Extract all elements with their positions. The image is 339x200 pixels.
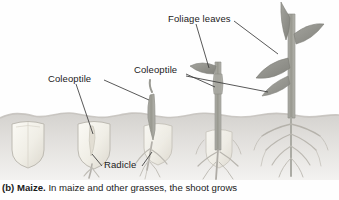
caption-panel-id: (b) (2, 182, 14, 193)
figure-caption: (b) Maize. In maize and other grasses, t… (2, 182, 339, 193)
germination-illustration: Foliage leaves Coleoptile Coleoptile Rad… (0, 0, 339, 180)
label-coleoptile-left: Coleoptile (48, 74, 91, 84)
label-coleoptile-right: Coleoptile (134, 65, 177, 75)
maize-germination-figure: Foliage leaves Coleoptile Coleoptile Rad… (0, 0, 339, 200)
caption-term: Maize. (17, 182, 46, 193)
caption-body: In maize and other grasses, the shoot gr… (46, 182, 237, 193)
label-radicle: Radicle (104, 160, 136, 170)
germination-scene-svg (0, 0, 339, 180)
stage-1-ungerminated-seed (12, 122, 44, 169)
label-foliage-leaves: Foliage leaves (168, 14, 231, 24)
